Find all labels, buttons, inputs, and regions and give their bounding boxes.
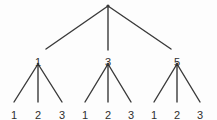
edge-3-to-leaf-3 xyxy=(108,64,131,102)
edge-1-to-leaf-3 xyxy=(38,64,62,102)
internal-node-3-label: 5 xyxy=(169,57,185,68)
leaf-node-1-2-label: 2 xyxy=(30,110,46,120)
edge-3-to-leaf-1 xyxy=(85,64,108,102)
leaf-node-3-2-label: 2 xyxy=(169,110,185,120)
leaf-node-2-1-label: 1 xyxy=(77,110,93,120)
root-edge-group xyxy=(46,6,171,50)
leaf-node-1-1-label: 1 xyxy=(6,110,22,120)
edge-5-to-leaf-3 xyxy=(177,64,200,102)
leaf-node-2-2-label: 2 xyxy=(100,110,116,120)
edge-1-to-leaf-1 xyxy=(14,64,38,102)
leaf-node-2-3-label: 3 xyxy=(123,110,139,120)
root-node-dot xyxy=(106,4,109,7)
root-edge-left xyxy=(46,6,108,49)
leaf-node-3-3-label: 3 xyxy=(192,110,208,120)
edge-5-to-leaf-1 xyxy=(154,64,177,102)
tree-diagram: 135 123123123 xyxy=(0,0,217,120)
internal-node-1-label: 1 xyxy=(30,57,46,68)
internal-node-2-label: 3 xyxy=(100,57,116,68)
leaf-node-3-1-label: 1 xyxy=(146,110,162,120)
branch-edge-group xyxy=(14,64,200,102)
leaf-node-1-3-label: 3 xyxy=(54,110,70,120)
root-edge-right xyxy=(108,6,171,49)
